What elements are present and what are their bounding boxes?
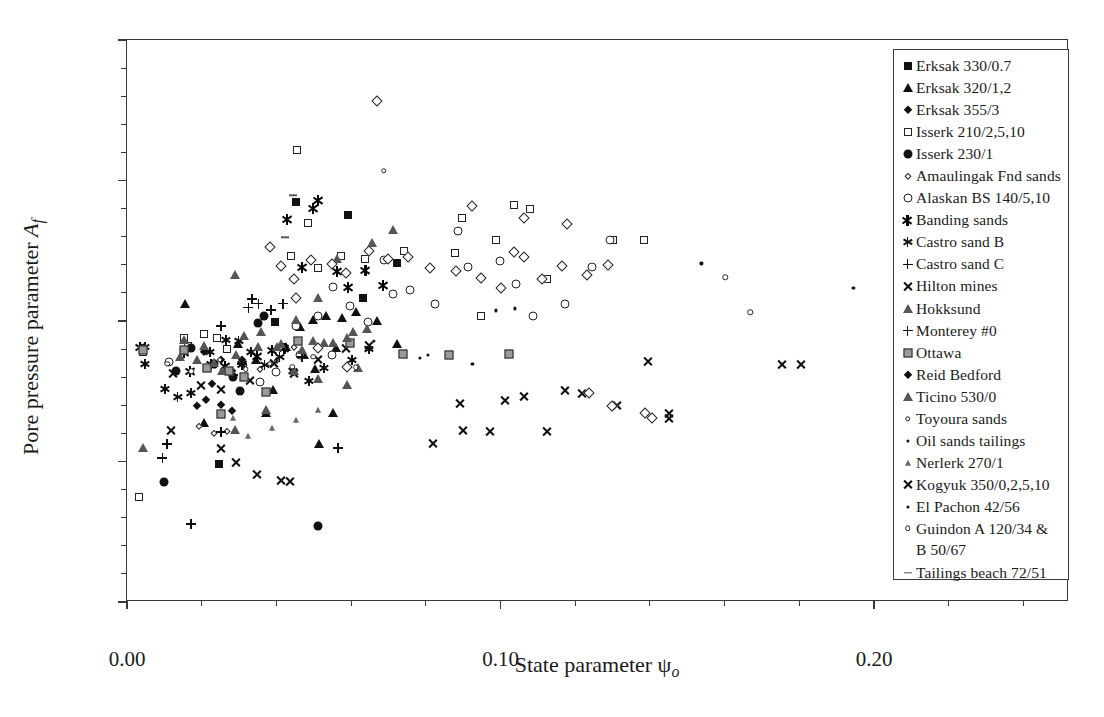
marker-open-diamond-icon	[264, 242, 275, 253]
marker-open-diamond-icon	[451, 265, 462, 276]
marker-small-triangle-icon	[245, 432, 251, 438]
marker-small-circle-icon	[723, 275, 729, 281]
legend-item-7[interactable]: Banding sands	[899, 209, 1064, 231]
legend-item-22[interactable]: Tailings beach 72/51	[899, 562, 1064, 584]
marker-small-circle-icon	[217, 357, 223, 363]
legend-item-13[interactable]: Ottawa	[899, 342, 1064, 364]
legend-item-16[interactable]: Toyoura sands	[899, 408, 1064, 430]
legend-item-15[interactable]: Ticino 530/0	[899, 386, 1064, 408]
legend-item-label: Nerlerk 270/1	[916, 452, 1004, 474]
marker-open-diamond-icon	[467, 201, 478, 212]
marker-thin-dash-icon	[904, 572, 912, 573]
marker-filled-circle-icon	[235, 386, 244, 395]
legend-item-6[interactable]: Alaskan BS 140/5,10	[899, 187, 1064, 209]
marker-dot-icon	[419, 356, 422, 359]
marker-open-square-icon	[458, 214, 466, 222]
legend-item-9[interactable]: Castro sand C	[899, 253, 1064, 275]
marker-open-diamond-icon	[496, 282, 507, 293]
marker-x-mark-icon	[775, 359, 787, 371]
legend-marker-open-square-icon	[899, 121, 916, 143]
legend-marker-open-triangle-icon	[899, 298, 916, 320]
marker-small-triangle-icon	[315, 407, 321, 413]
legend-item-5[interactable]: Amaulingak Fnd sands	[899, 165, 1064, 187]
legend-item-19[interactable]: Kogyuk 350/0,2,5,10	[899, 474, 1064, 496]
legend-item-4[interactable]: Isserk 230/1	[899, 143, 1064, 165]
x-axis-minor-tick	[649, 600, 650, 606]
marker-open-diamond-icon	[425, 263, 436, 274]
marker-plus-icon	[246, 293, 258, 305]
marker-open-triangle-icon	[388, 225, 398, 234]
legend-item-label: Erksak 330/0.7	[916, 55, 1011, 77]
x-axis-title-subscript: o	[671, 663, 679, 680]
marker-small-triangle-icon	[293, 417, 299, 423]
marker-x-mark-icon	[642, 356, 654, 368]
marker-small-circle-icon	[310, 354, 316, 360]
marker-gray-square-icon	[261, 387, 270, 396]
x-axis-major-tick	[500, 600, 501, 609]
marker-x-mark-icon	[167, 368, 179, 380]
y-axis-title-subscript: f	[29, 219, 46, 223]
marker-asterisk-icon	[139, 358, 151, 370]
marker-x-mark-icon	[902, 479, 914, 491]
legend-item-label: Isserk 210/2,5,10	[916, 121, 1025, 143]
legend-item-14[interactable]: Reid Bedford	[899, 364, 1064, 386]
marker-small-circle-icon	[267, 361, 273, 367]
legend-item-label: Ticino 530/0	[916, 386, 996, 408]
marker-open-circle-icon	[314, 311, 323, 320]
marker-open-triangle-icon	[261, 405, 271, 414]
y-axis-title: Pore pressure parameter Af	[14, 56, 48, 618]
legend-marker-filled-circle-icon	[899, 143, 916, 165]
marker-open-diamond-icon	[556, 261, 567, 272]
legend-item-label: Isserk 230/1	[916, 143, 993, 165]
legend-item-label: Oil sands tailings	[916, 430, 1025, 452]
x-axis-minor-tick	[1023, 600, 1024, 606]
legend-marker-small-circle-icon	[899, 518, 916, 539]
marker-open-diamond-icon	[518, 212, 529, 223]
legend-marker-open-triangle-icon	[899, 386, 916, 408]
marker-thin-dash-icon	[289, 194, 297, 195]
marker-open-square-icon	[477, 312, 485, 320]
legend-item-1[interactable]: Erksak 320/1,2	[899, 77, 1064, 99]
legend-item-2[interactable]: Erksak 355/3	[899, 99, 1064, 121]
marker-filled-triangle-icon	[314, 439, 324, 448]
marker-dot-icon	[373, 340, 376, 343]
marker-open-triangle-icon	[230, 271, 240, 280]
marker-open-circle-icon	[327, 351, 336, 360]
marker-open-triangle-icon	[313, 293, 323, 302]
y-axis-major-tick	[118, 180, 127, 181]
y-axis-minor-tick	[121, 236, 127, 237]
legend-item-17[interactable]: Oil sands tailings	[899, 430, 1064, 452]
legend-item-21[interactable]: Guindon A 120/34 & B 50/67	[899, 518, 1064, 562]
marker-x-mark-icon	[663, 413, 675, 425]
legend-item-11[interactable]: Hokksund	[899, 298, 1064, 320]
legend-item-18[interactable]: Nerlerk 270/1	[899, 452, 1064, 474]
marker-open-square-icon	[451, 249, 459, 257]
marker-filled-diamond-icon	[903, 106, 912, 115]
marker-open-circle-icon	[605, 235, 614, 244]
marker-heavy-asterisk-icon	[902, 214, 914, 226]
marker-heavy-asterisk-icon	[281, 213, 293, 225]
marker-open-triangle-icon	[239, 331, 249, 340]
marker-gray-square-icon	[444, 351, 453, 360]
marker-open-diamond-icon	[290, 292, 301, 303]
marker-filled-circle-icon	[314, 522, 323, 531]
x-axis-tick-label: 0.10	[451, 649, 551, 670]
legend-marker-gray-square-icon	[899, 342, 916, 364]
legend-item-10[interactable]: Hilton mines	[899, 275, 1064, 297]
marker-open-triangle-icon	[342, 333, 352, 342]
marker-open-square-icon	[904, 128, 912, 136]
legend-item-0[interactable]: Erksak 330/0.7	[899, 55, 1064, 77]
legend-marker-small-diamond-icon	[899, 165, 916, 187]
marker-open-diamond-icon	[371, 96, 382, 107]
legend-item-label: Kogyuk 350/0,2,5,10	[916, 474, 1050, 496]
legend-item-label: Hilton mines	[916, 275, 998, 297]
marker-open-circle-icon	[431, 299, 440, 308]
legend-item-12[interactable]: Monterey #0	[899, 320, 1064, 342]
legend-item-3[interactable]: Isserk 210/2,5,10	[899, 121, 1064, 143]
marker-open-circle-icon	[560, 299, 569, 308]
y-axis-minor-tick	[121, 377, 127, 378]
legend-item-8[interactable]: Castro sand B	[899, 231, 1064, 253]
marker-open-circle-icon	[495, 257, 504, 266]
marker-open-circle-icon	[406, 285, 415, 294]
legend-item-20[interactable]: El Pachon 42/56	[899, 496, 1064, 518]
